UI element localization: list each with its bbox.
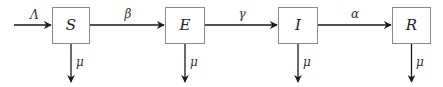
node-s-label: S <box>66 16 76 34</box>
outflow-r-label: μ <box>416 55 424 69</box>
seir-compartment-diagram: Λ S β E γ I α R μ μ <box>0 0 443 87</box>
edge-i-to-r-label: α <box>351 7 359 21</box>
node-e-label: E <box>179 16 191 34</box>
inflow-label: Λ <box>29 8 39 22</box>
outflow-s-label: μ <box>76 55 84 69</box>
outflow-i: μ <box>298 44 311 82</box>
node-i: I <box>279 8 318 44</box>
outflow-e-label: μ <box>190 55 198 69</box>
node-r-label: R <box>405 16 417 34</box>
edge-e-to-i-label: γ <box>238 7 246 21</box>
edge-s-to-e-label: β <box>124 7 132 21</box>
node-s: S <box>53 8 90 44</box>
outflow-r: μ <box>412 44 425 82</box>
inflow-arrow: Λ <box>14 8 51 25</box>
node-i-label: I <box>294 16 302 34</box>
edge-s-to-e: β <box>90 7 164 25</box>
outflow-s: μ <box>71 44 84 82</box>
edge-e-to-i: γ <box>205 7 277 25</box>
node-e: E <box>166 8 205 44</box>
edge-i-to-r: α <box>318 7 391 25</box>
outflow-e: μ <box>185 44 198 82</box>
outflow-i-label: μ <box>303 55 311 69</box>
node-r: R <box>393 8 431 44</box>
